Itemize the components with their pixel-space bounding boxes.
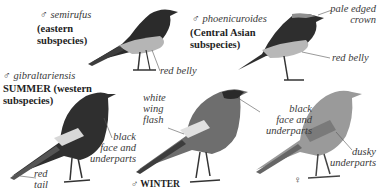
winter-black-face-label: blackface andunderparts xyxy=(248,103,312,136)
semirufus-name-label: ♂ semirufus xyxy=(40,9,91,20)
winter-caption: ♂ WINTER xyxy=(131,179,180,190)
phoenicuroides-red-belly-label: red belly xyxy=(332,52,369,63)
semirufus-red-belly-label: red belly xyxy=(160,65,197,76)
pale-edged-crown-label: pale edgedcrown xyxy=(320,3,376,25)
field-guide-plate: ♂ semirufus (eastern subspecies) red bel… xyxy=(0,0,378,193)
gibraltariensis-caption-line2: subspecies) xyxy=(3,95,53,106)
white-wing-flash-label: whitewingflash xyxy=(143,92,166,125)
male-symbol-icon: ♂ xyxy=(131,179,138,189)
red-tail-label: redtail xyxy=(34,168,48,190)
male-symbol-icon: ♂ xyxy=(3,70,11,81)
male-symbol-icon: ♂ xyxy=(192,13,200,24)
dusky-underparts-label: duskyunderparts xyxy=(320,146,376,168)
semirufus-caption-line1: (eastern xyxy=(37,23,73,34)
gibraltariensis-name-label: ♂ gibraltariensis xyxy=(3,70,75,81)
female-symbol-icon: ♀ xyxy=(294,174,302,185)
male-symbol-icon: ♂ xyxy=(40,9,48,20)
phoenicuroides-name-label: ♂ phoenicuroides xyxy=(192,13,267,24)
phoenicuroides-caption-line2: subspecies) xyxy=(190,39,240,50)
semirufus-caption-line2: subspecies) xyxy=(37,35,87,46)
gibraltariensis-caption-line1: SUMMER (western xyxy=(3,83,92,94)
gibraltariensis-black-face-label: blackface andunderparts xyxy=(84,131,136,164)
bird-semirufus-illustration xyxy=(88,10,178,72)
phoenicuroides-caption-line1: (Central Asian xyxy=(190,27,256,38)
